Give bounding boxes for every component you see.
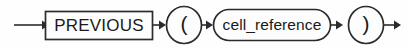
connector-open-paren-to-cell-reference <box>202 21 214 30</box>
terminal-circle-open-paren-label: ( <box>181 12 188 35</box>
terminal-circle-open-paren: ( <box>167 7 202 44</box>
terminal-box-previous-label: PREVIOUS <box>54 16 143 35</box>
railroad-diagram: PREVIOUS ( cell_reference <box>0 0 410 49</box>
terminal-circle-close-paren: ) <box>349 7 384 44</box>
exit-arrow <box>384 21 402 30</box>
terminal-circle-close-paren-label: ) <box>363 12 370 35</box>
nonterminal-cell-reference: cell_reference <box>214 10 331 41</box>
nonterminal-cell-reference-label: cell_reference <box>223 16 322 33</box>
connector-previous-to-open-paren <box>153 21 167 30</box>
terminal-box-previous: PREVIOUS <box>46 12 153 40</box>
entry-arrow <box>14 21 49 30</box>
connector-cell-reference-to-close-paren <box>331 21 344 30</box>
railroad-diagram-canvas: PREVIOUS ( cell_reference <box>0 0 410 49</box>
